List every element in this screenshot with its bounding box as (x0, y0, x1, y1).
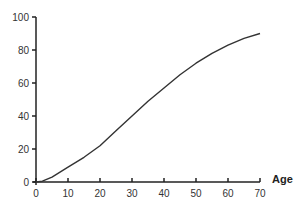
x-tick-label: 70 (254, 188, 266, 199)
x-tick-label: 20 (94, 188, 106, 199)
x-tick-label: 0 (33, 188, 39, 199)
y-tick-label: 80 (18, 45, 30, 56)
x-tick-label: 30 (126, 188, 138, 199)
y-tick-label: 40 (18, 111, 30, 122)
x-tick-label: 60 (222, 188, 234, 199)
x-tick-label: 50 (190, 188, 202, 199)
y-tick-label: 60 (18, 78, 30, 89)
y-tick-label: 100 (12, 12, 29, 23)
x-tick-label: 40 (158, 188, 170, 199)
data-line (36, 34, 260, 183)
y-tick-label: 20 (18, 144, 30, 155)
x-axis-title: Age (272, 173, 293, 185)
line-chart: 020406080100010203040506070Age (0, 0, 305, 214)
y-tick-label: 0 (23, 177, 29, 188)
x-tick-label: 10 (62, 188, 74, 199)
